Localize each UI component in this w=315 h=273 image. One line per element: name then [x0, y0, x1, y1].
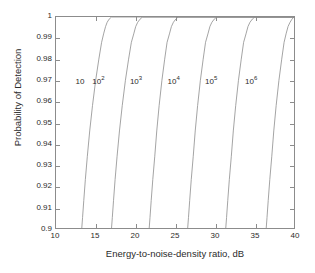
curve-label-10^3: 103: [130, 78, 142, 86]
x-tick-label: 10: [51, 232, 60, 240]
y-tick-label: 0.92: [36, 182, 52, 190]
y-tick-mark: [56, 60, 60, 61]
curve-label-exponent: 2: [101, 75, 104, 81]
y-tick-mark: [56, 145, 60, 146]
y-tick-mark: [56, 187, 60, 188]
y-tick-mark: [290, 209, 294, 210]
x-tick-mark: [176, 224, 177, 228]
y-tick-mark: [56, 102, 60, 103]
x-tick-mark: [256, 224, 257, 228]
y-tick-mark: [290, 81, 294, 82]
y-tick-mark: [290, 166, 294, 167]
y-axis-tick-labels: 0.90.910.920.930.940.950.960.970.980.991: [0, 16, 52, 229]
x-axis-tick-labels: 10152025303540: [55, 232, 295, 244]
y-tick-label: 0.95: [36, 119, 52, 127]
curve-label-10^5: 105: [205, 78, 217, 86]
x-tick-mark: [136, 17, 137, 21]
x-tick-label: 15: [91, 232, 100, 240]
curve-layer: [56, 17, 294, 228]
plot-area: 10102103104105106: [55, 16, 295, 229]
y-tick-label: 0.97: [36, 76, 52, 84]
y-tick-mark: [56, 124, 60, 125]
chart-figure: Probability of Detection 0.90.910.920.93…: [0, 0, 315, 273]
y-tick-mark: [56, 166, 60, 167]
y-tick-mark: [56, 209, 60, 210]
x-tick-mark: [216, 17, 217, 21]
y-tick-mark: [290, 124, 294, 125]
x-tick-mark: [256, 17, 257, 21]
y-tick-mark: [290, 102, 294, 103]
curve-10^5: [226, 17, 294, 228]
x-axis-title: Energy-to-noise-density ratio, dB: [55, 248, 295, 259]
y-tick-label: 0.91: [36, 204, 52, 212]
y-tick-label: 0.96: [36, 97, 52, 105]
x-tick-mark: [96, 224, 97, 228]
curve-label-10^6: 106: [245, 78, 257, 86]
y-tick-label: 0.99: [36, 33, 52, 41]
x-tick-mark: [136, 224, 137, 228]
x-tick-label: 35: [251, 232, 260, 240]
curve-label-10^4: 104: [167, 78, 179, 86]
y-tick-mark: [290, 38, 294, 39]
x-tick-mark: [216, 224, 217, 228]
curve-label-exponent: 4: [176, 75, 179, 81]
y-tick-mark: [290, 145, 294, 146]
curve-10^3: [149, 17, 294, 228]
curve-10^4: [188, 17, 294, 228]
curve-10^6: [266, 17, 294, 228]
y-tick-mark: [56, 81, 60, 82]
x-tick-mark: [176, 17, 177, 21]
y-tick-label: 1: [48, 12, 52, 20]
curve-label-exponent: 3: [139, 75, 142, 81]
x-tick-label: 40: [291, 232, 300, 240]
curve-label-10: 10: [76, 78, 85, 86]
curve-label-exponent: 6: [254, 75, 257, 81]
x-tick-label: 30: [211, 232, 220, 240]
curve-label-10^2: 102: [92, 78, 104, 86]
y-tick-mark: [290, 187, 294, 188]
y-tick-mark: [56, 38, 60, 39]
x-tick-label: 20: [131, 232, 140, 240]
x-tick-mark: [96, 17, 97, 21]
y-tick-label: 0.93: [36, 161, 52, 169]
y-tick-mark: [290, 60, 294, 61]
x-tick-label: 25: [171, 232, 180, 240]
y-tick-label: 0.98: [36, 55, 52, 63]
curve-10^2: [112, 17, 294, 228]
y-tick-label: 0.94: [36, 140, 52, 148]
curve-label-exponent: 5: [214, 75, 217, 81]
